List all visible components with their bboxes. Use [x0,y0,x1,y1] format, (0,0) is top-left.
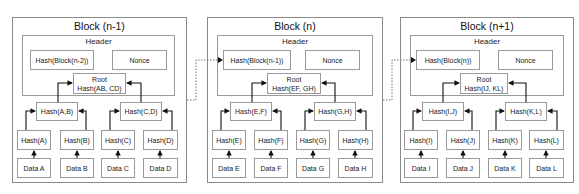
data-item: Data B [60,158,94,178]
nonce-box: Nonce [498,50,553,70]
merkle-root: Root Hash(EF, GH) [267,73,321,94]
leaf-hash: Hash(L) [529,130,564,150]
data-item: Data G [296,158,330,178]
pair-hash: Hash(G,H) [314,102,356,121]
nonce-box: Nonce [305,50,360,70]
data-item: Data H [338,158,373,178]
prev-block-hash: Hash(Block(n-2)) [30,50,94,70]
data-item: Data F [254,158,288,178]
root-hash: Hash(EF, GH) [272,84,316,93]
leaf-hash: Hash(H) [338,130,373,150]
leaf-hash: Hash(A) [17,130,51,150]
prev-block-hash: Hash(Block(n-1)) [223,50,291,70]
data-item: Data D [143,158,178,178]
pair-hash: Hash(E,F) [230,102,272,121]
data-item: Data A [17,158,51,178]
root-label: Root [92,75,107,84]
pair-hash: Hash(K,L) [505,102,547,121]
leaf-hash: Hash(F) [254,130,288,150]
leaf-hash: Hash(I) [404,130,438,150]
header-title: Header [23,37,174,46]
merkle-root: Root Hash(IJ, KL) [460,73,508,94]
root-label: Root [287,75,302,84]
data-item: Data K [488,158,522,178]
leaf-hash: Hash(J) [446,130,480,150]
root-hash: Hash(AB, CD) [77,84,121,93]
root-hash: Hash(IJ, KL) [465,84,504,93]
leaf-hash: Hash(G) [296,130,330,150]
pair-hash: Hash(C,D) [120,102,162,121]
data-item: Data C [101,158,135,178]
leaf-hash: Hash(E) [212,130,246,150]
block-title: Block (n+1) [401,20,573,32]
data-item: Data J [446,158,480,178]
data-item: Data L [529,158,564,178]
pair-hash: Hash(A,B) [36,102,78,121]
nonce-box: Nonce [112,50,167,70]
header-title: Header [218,37,372,46]
data-item: Data E [212,158,246,178]
block-title: Block (n-1) [13,20,186,32]
block-title: Block (n) [208,20,382,32]
leaf-hash: Hash(K) [488,130,522,150]
leaf-hash: Hash(C) [101,130,135,150]
pair-hash: Hash(I,J) [422,102,464,121]
leaf-hash: Hash(B) [60,130,94,150]
root-label: Root [477,75,492,84]
data-item: Data I [404,158,438,178]
merkle-root: Root Hash(AB, CD) [73,73,126,94]
leaf-hash: Hash(D) [143,130,178,150]
header-title: Header [411,37,563,46]
prev-block-hash: Hash(Block(n)) [416,50,480,70]
